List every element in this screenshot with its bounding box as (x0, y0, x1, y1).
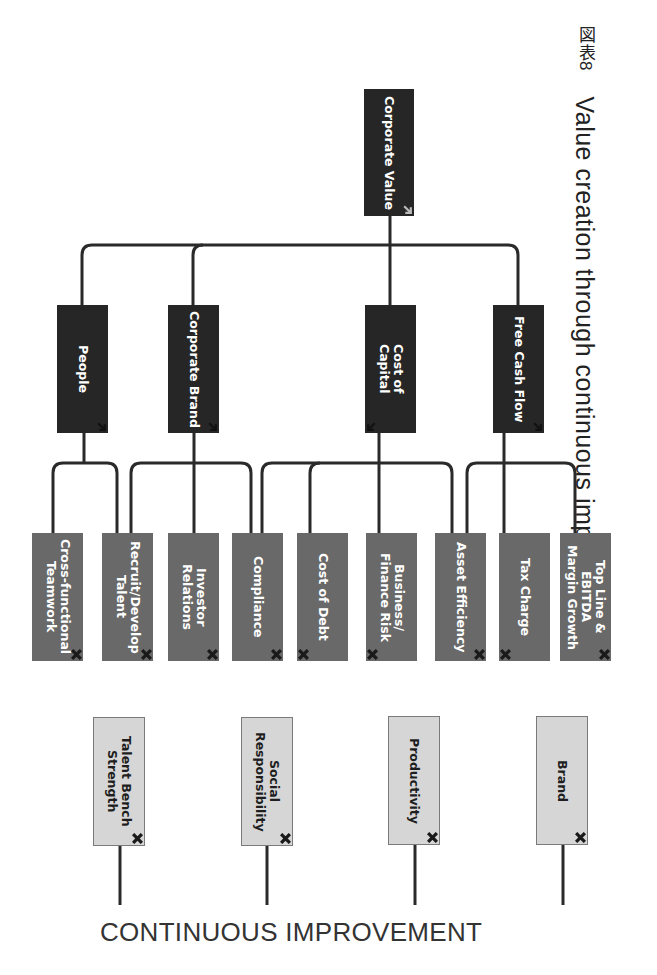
lever-node-tax-charge: Tax Charge (499, 533, 550, 661)
continuous-improvement-label: CONTINUOUS IMPROVEMENT (100, 917, 482, 948)
root-node-corporate-value: Corporate Value (364, 89, 414, 216)
outcome-node-productivity: Productivity (388, 716, 440, 845)
driver-node-people: People (57, 305, 108, 433)
expand-corner-icon (474, 649, 485, 660)
expand-corner-icon (367, 649, 378, 660)
lever-node-recruit-develop-talent: Recruit/Develop Talent (102, 533, 153, 661)
lever-node-investor-relations: Investor Relations (168, 533, 219, 661)
expand-corner-icon (71, 649, 82, 660)
expand-corner-icon (132, 833, 143, 844)
expand-corner-icon (280, 833, 291, 844)
expand-corner-icon (271, 649, 282, 660)
expand-corner-icon (141, 649, 152, 660)
expand-corner-icon (427, 832, 438, 843)
expand-corner-icon (207, 421, 218, 432)
driver-node-cost-of-capital: Cost of Capital (365, 305, 416, 433)
outcome-node-brand: Brand (536, 716, 588, 845)
expand-corner-icon (366, 421, 377, 432)
outcome-node-social-responsibility: Social Responsibility (241, 717, 293, 846)
expand-corner-icon (298, 649, 309, 660)
expand-corner-icon (207, 649, 218, 660)
driver-node-free-cash-flow: Free Cash Flow (493, 305, 544, 433)
lever-node-cross-functional-teamwork: Cross-functional Teamwork (32, 533, 83, 661)
lever-node-cost-of-debt: Cost of Debt (297, 533, 348, 661)
lever-node-compliance: Compliance (232, 533, 283, 661)
expand-corner-icon (500, 649, 511, 660)
outcome-node-talent-bench-strength: Talent Bench Strength (93, 717, 145, 846)
lever-node-business-finance-risk: Business/ Finance Risk (366, 533, 417, 661)
expand-corner-icon (575, 832, 586, 843)
lever-node-asset-efficiency: Asset Efficiency (435, 533, 486, 661)
expand-corner-icon (599, 649, 610, 660)
lever-node-top-line-ebitda-margin-growth: Top Line & EBITDA Margin Growth (560, 533, 611, 661)
expand-corner-icon (96, 421, 107, 432)
expand-corner-icon (532, 421, 543, 432)
expand-corner-icon (402, 204, 413, 215)
driver-node-corporate-brand: Corporate Brand (168, 305, 219, 433)
